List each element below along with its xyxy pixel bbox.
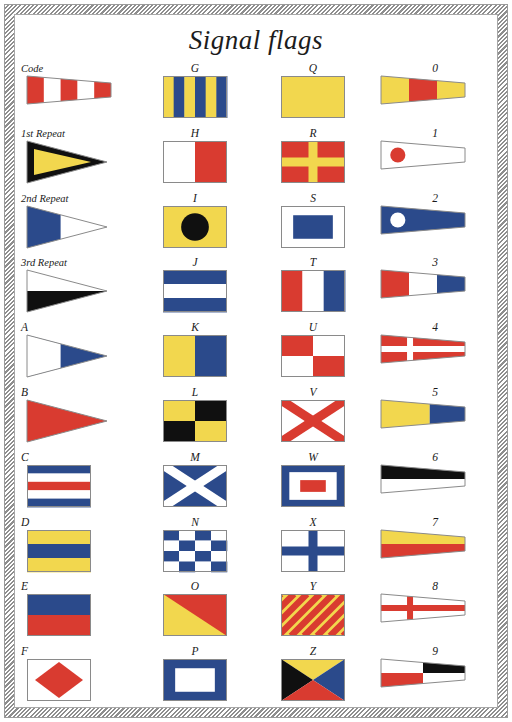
- flag-label: 3: [375, 255, 495, 270]
- poster-content: Signal flags Code1st Repeat2nd Repeat3rd…: [15, 15, 497, 707]
- flag-label: X: [257, 515, 369, 530]
- flag-cell-o: O: [139, 579, 251, 644]
- flag-cell-i: I: [139, 191, 251, 256]
- flag-graphic-v: [257, 400, 369, 444]
- flag-column-column-numerals: 0123456789: [375, 61, 495, 707]
- flag-label: 2nd Repeat: [21, 191, 133, 206]
- flag-column-column-g-to-p: GHIJKLMNOP: [139, 61, 251, 707]
- flag-cell-k: K: [139, 320, 251, 385]
- flag-label: 5: [375, 385, 495, 400]
- flag-label: P: [139, 644, 251, 659]
- flag-label: 2: [375, 191, 495, 206]
- flag-label: Z: [257, 644, 369, 659]
- flag-graphic-9: [375, 659, 495, 703]
- flag-cell-q: Q: [257, 61, 369, 126]
- flag-graphic-h: [139, 141, 251, 185]
- flag-label: A: [21, 320, 133, 335]
- flag-cell-8: 8: [375, 579, 495, 644]
- signal-flags-poster: Signal flags Code1st Repeat2nd Repeat3rd…: [0, 0, 512, 722]
- flag-graphic-code: [21, 76, 133, 120]
- flag-grid: Code1st Repeat2nd Repeat3rd RepeatABCDEF…: [15, 61, 497, 707]
- flag-graphic-t: [257, 270, 369, 314]
- flag-cell-1: 1: [375, 126, 495, 191]
- flag-label: W: [257, 450, 369, 465]
- flag-label: 8: [375, 579, 495, 594]
- flag-column-column-repeaters-and-a-f: Code1st Repeat2nd Repeat3rd RepeatABCDEF: [21, 61, 133, 707]
- flag-cell-9: 9: [375, 644, 495, 707]
- flag-cell-h: H: [139, 126, 251, 191]
- flag-graphic-p: [139, 659, 251, 703]
- flag-label: E: [21, 579, 133, 594]
- flag-graphic-a: [21, 335, 133, 379]
- flag-cell-l: L: [139, 385, 251, 450]
- flag-label: B: [21, 385, 133, 400]
- flag-cell-t: T: [257, 255, 369, 320]
- flag-label: 0: [375, 61, 495, 76]
- flag-graphic-n: [139, 530, 251, 574]
- flag-graphic-o: [139, 594, 251, 638]
- flag-label: D: [21, 515, 133, 530]
- flag-graphic-1: [375, 141, 495, 185]
- flag-cell-e: E: [21, 579, 133, 644]
- flag-label: 1st Repeat: [21, 126, 133, 141]
- flag-cell-6: 6: [375, 450, 495, 515]
- flag-label: J: [139, 255, 251, 270]
- flag-cell-7: 7: [375, 515, 495, 580]
- flag-label: 3rd Repeat: [21, 255, 133, 270]
- flag-cell-3rd-repeat: 3rd Repeat: [21, 255, 133, 320]
- flag-label: K: [139, 320, 251, 335]
- flag-cell-2nd-repeat: 2nd Repeat: [21, 191, 133, 256]
- flag-label: 9: [375, 644, 495, 659]
- flag-cell-c: C: [21, 450, 133, 515]
- flag-graphic-1st-repeat: [21, 141, 133, 185]
- flag-cell-b: B: [21, 385, 133, 450]
- flag-graphic-c: [21, 465, 133, 509]
- flag-column-column-q-to-z: QRSTUVWXYZ: [257, 61, 369, 707]
- flag-cell-s: S: [257, 191, 369, 256]
- flag-cell-p: P: [139, 644, 251, 707]
- flag-label: H: [139, 126, 251, 141]
- flag-label: 7: [375, 515, 495, 530]
- flag-graphic-b: [21, 400, 133, 444]
- flag-cell-n: N: [139, 515, 251, 580]
- flag-graphic-6: [375, 465, 495, 509]
- flag-label: Y: [257, 579, 369, 594]
- flag-cell-x: X: [257, 515, 369, 580]
- flag-graphic-4: [375, 335, 495, 379]
- flag-graphic-f: [21, 659, 133, 703]
- flag-label: 4: [375, 320, 495, 335]
- flag-graphic-2nd-repeat: [21, 206, 133, 250]
- flag-cell-4: 4: [375, 320, 495, 385]
- flag-label: L: [139, 385, 251, 400]
- flag-label: C: [21, 450, 133, 465]
- flag-cell-f: F: [21, 644, 133, 707]
- flag-cell-j: J: [139, 255, 251, 320]
- flag-label: Code: [21, 61, 133, 76]
- flag-cell-3: 3: [375, 255, 495, 320]
- flag-graphic-k: [139, 335, 251, 379]
- flag-graphic-x: [257, 530, 369, 574]
- flag-cell-0: 0: [375, 61, 495, 126]
- flag-cell-z: Z: [257, 644, 369, 707]
- flag-label: V: [257, 385, 369, 400]
- flag-label: Q: [257, 61, 369, 76]
- flag-cell-1st-repeat: 1st Repeat: [21, 126, 133, 191]
- flag-label: N: [139, 515, 251, 530]
- flag-cell-2: 2: [375, 191, 495, 256]
- flag-graphic-d: [21, 530, 133, 574]
- flag-graphic-5: [375, 400, 495, 444]
- flag-graphic-l: [139, 400, 251, 444]
- flag-graphic-r: [257, 141, 369, 185]
- flag-label: 1: [375, 126, 495, 141]
- flag-cell-code: Code: [21, 61, 133, 126]
- flag-label: 6: [375, 450, 495, 465]
- flag-label: M: [139, 450, 251, 465]
- flag-graphic-z: [257, 659, 369, 703]
- flag-graphic-3: [375, 270, 495, 314]
- flag-graphic-i: [139, 206, 251, 250]
- flag-graphic-0: [375, 76, 495, 120]
- flag-cell-g: G: [139, 61, 251, 126]
- flag-cell-v: V: [257, 385, 369, 450]
- flag-graphic-y: [257, 594, 369, 638]
- flag-cell-5: 5: [375, 385, 495, 450]
